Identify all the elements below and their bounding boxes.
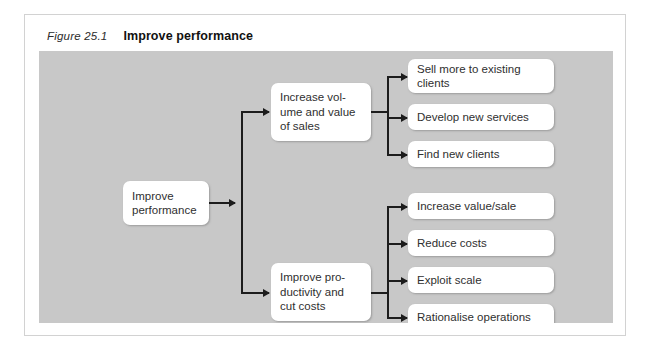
node-leaf-1-2[interactable]: Develop new services [408, 104, 554, 130]
node-leaf-2-1-label: Increase value/sale [417, 199, 516, 214]
figure-caption: Figure 25.1Improve performance [47, 27, 253, 43]
arrow-leaf-2-2 [401, 240, 408, 248]
node-root-label: Improve performance [132, 189, 197, 218]
node-leaf-1-3-label: Find new clients [417, 147, 499, 162]
arrow-leaf-2-3 [401, 277, 408, 285]
arrow-leaf-2-1 [401, 203, 408, 211]
node-leaf-1-1-label: Sell more to existing clients [417, 62, 521, 91]
node-leaf-1-1[interactable]: Sell more to existing clients [408, 59, 554, 93]
node-leaf-1-2-label: Develop new services [417, 110, 529, 125]
arrow-trunk-to-branch-2 [263, 289, 270, 297]
figure-number: Figure 25.1 [47, 30, 107, 42]
node-branch-1-label: Increase vol- ume and value of sales [280, 90, 355, 134]
diagram-panel: Improve performance Increase vol- ume an… [39, 51, 613, 323]
arrow-leaf-2-4 [401, 314, 408, 322]
arrow-leaf-1-1 [401, 73, 408, 81]
connector-subtrunk-1-vertical [387, 76, 389, 156]
figure-title: Improve performance [123, 29, 253, 43]
node-root[interactable]: Improve performance [123, 181, 209, 225]
node-leaf-2-3-label: Exploit scale [417, 273, 482, 288]
node-branch-1[interactable]: Increase vol- ume and value of sales [271, 83, 371, 141]
connector-trunk-vertical [241, 111, 243, 294]
node-leaf-2-1[interactable]: Increase value/sale [408, 193, 554, 219]
figure-frame: Figure 25.1Improve performance Improve p… [24, 14, 626, 336]
node-leaf-1-3[interactable]: Find new clients [408, 141, 554, 167]
arrow-leaf-1-2 [401, 114, 408, 122]
arrow-trunk-to-branch-1 [263, 108, 270, 116]
arrow-leaf-1-3 [401, 151, 408, 159]
node-leaf-2-2[interactable]: Reduce costs [408, 230, 554, 256]
node-leaf-2-4-label: Rationalise operations [417, 310, 531, 323]
node-leaf-2-4[interactable]: Rationalise operations [408, 304, 554, 323]
node-branch-2-label: Improve pro- ductivity and cut costs [280, 270, 345, 314]
node-branch-2[interactable]: Improve pro- ductivity and cut costs [271, 263, 371, 321]
node-leaf-2-3[interactable]: Exploit scale [408, 267, 554, 293]
connector-subtrunk-2-vertical [387, 206, 389, 319]
node-leaf-2-2-label: Reduce costs [417, 236, 487, 251]
arrow-root-to-trunk [229, 199, 236, 207]
